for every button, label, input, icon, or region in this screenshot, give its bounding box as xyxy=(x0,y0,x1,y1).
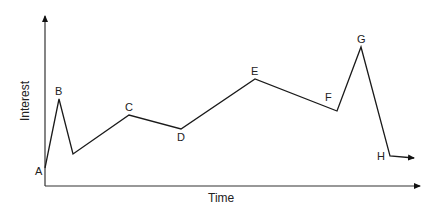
point-label-e: E xyxy=(251,65,258,77)
point-label-b: B xyxy=(55,85,62,97)
interest-curve xyxy=(45,47,414,168)
point-label-h: H xyxy=(377,150,385,162)
point-label-g: G xyxy=(357,33,366,45)
interest-time-diagram: Time Interest A B C D E F G H xyxy=(0,0,431,212)
point-label-c: C xyxy=(125,101,133,113)
x-axis-label: Time xyxy=(208,191,235,205)
point-label-f: F xyxy=(325,91,332,103)
point-label-d: D xyxy=(177,131,185,143)
point-label-a: A xyxy=(35,165,43,177)
y-axis-label: Interest xyxy=(18,80,32,121)
